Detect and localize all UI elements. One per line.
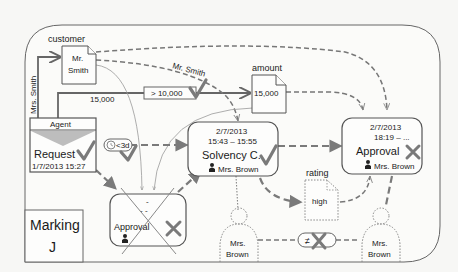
condition-label: > 10,000 <box>151 89 183 98</box>
request-timestamp: 1/7/2013 15:27 <box>32 162 86 171</box>
approval-left-date: - <box>146 197 149 206</box>
approval-left-time: - - <box>140 206 148 215</box>
marking-box: Marking J <box>25 210 83 262</box>
solvency-date: 2/7/2013 <box>216 127 248 136</box>
request-name: Request <box>34 148 75 160</box>
rating-label: rating <box>306 168 329 178</box>
constraint-not-equal[interactable]: ≠ <box>298 233 336 248</box>
solvency-time: 15:43 – 15:55 <box>208 137 257 146</box>
timer-label: <3d <box>116 141 130 150</box>
amount-label: amount <box>252 63 283 73</box>
approval-right-time: 18:19 – ... <box>374 133 410 142</box>
approval-right-performer: Mrs. Brown <box>374 162 414 171</box>
solvency-performer: Mrs. Brown <box>218 165 258 174</box>
process-diagram: Mrs. Smith 15,000 Mr. Smith > 10,000 <3d… <box>0 0 458 272</box>
solvency-name: Solvency C. <box>202 149 261 161</box>
approval-right-date: 2/7/2013 <box>370 123 402 132</box>
marking-value: J <box>49 239 56 255</box>
approval-right-name: Approval <box>356 145 399 157</box>
person-left-name-line2: Brown <box>226 250 249 259</box>
approval-left-name: Approval <box>114 222 150 232</box>
data-object-amount[interactable]: amount 15,000 <box>252 63 286 113</box>
label-mrs-smith: Mrs. Smith <box>29 76 38 114</box>
activity-approval-left[interactable]: - - - Approval <box>110 188 186 254</box>
person-right-name-line1: Mrs. <box>372 239 388 248</box>
customer-value-line2: Smith <box>68 66 88 75</box>
activity-solvency[interactable]: 2/7/2013 15:43 – 15:55 Solvency C. Mrs. … <box>188 122 278 176</box>
customer-label: customer <box>48 34 85 44</box>
not-equal-symbol: ≠ <box>305 236 310 246</box>
activity-request[interactable]: Agent Request 1/7/2013 15:27 <box>30 118 96 172</box>
person-right-name-line2: Brown <box>368 250 391 259</box>
rating-value: high <box>312 197 327 206</box>
amount-value: 15,000 <box>254 89 279 98</box>
person-left-name-line1: Mrs. <box>230 239 246 248</box>
activity-approval-right[interactable]: 2/7/2013 18:19 – ... Approval Mrs. Brown <box>342 118 422 174</box>
marking-title: Marking <box>30 217 80 233</box>
label-amount-15000: 15,000 <box>90 95 115 104</box>
customer-value-line1: Mr. <box>72 54 83 63</box>
request-role: Agent <box>50 120 72 129</box>
